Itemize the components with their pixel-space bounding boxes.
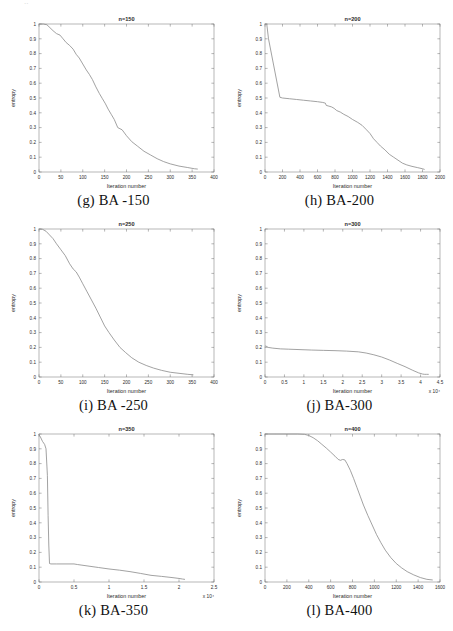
y-tick-label: 0.1 <box>256 565 263 570</box>
x-axis-exponent: x 10⁴ <box>203 594 214 599</box>
y-axis-label: entropy <box>236 499 242 517</box>
x-tick-label: 0 <box>38 380 41 385</box>
x-tick-label: 400 <box>210 380 218 385</box>
chart-title: n=300 <box>344 221 360 227</box>
y-tick-label: 0.5 <box>256 96 263 101</box>
panel-j: n=30000.511.522.533.544.500.10.20.30.40.… <box>230 219 449 399</box>
y-tick-label: 0.5 <box>256 506 263 511</box>
chart-i: n=25005010015020025030035040000.10.20.30… <box>4 219 223 399</box>
data-curve <box>265 24 424 169</box>
y-tick-label: 1 <box>259 22 262 27</box>
x-tick-label: 0 <box>264 585 267 590</box>
x-tick-label: 600 <box>314 175 322 180</box>
x-tick-label: 2.5 <box>211 585 218 590</box>
plot-box <box>265 434 440 582</box>
y-tick-label: 0.9 <box>30 447 37 452</box>
x-tick-label: 0 <box>38 175 41 180</box>
y-tick-label: 0.8 <box>30 461 37 466</box>
y-tick-label: 0.4 <box>30 111 37 116</box>
y-tick-label: 0.9 <box>256 447 263 452</box>
y-tick-label: 0.4 <box>256 111 263 116</box>
y-tick-label: 0.2 <box>30 140 37 145</box>
x-tick-label: 250 <box>145 380 153 385</box>
x-axis-label: Iteration number <box>107 593 146 599</box>
y-axis-label: entropy <box>10 499 16 517</box>
y-tick-label: 0 <box>33 375 36 380</box>
x-tick-label: 200 <box>123 175 131 180</box>
chart-title: n=150 <box>118 16 134 22</box>
x-tick-label: 1800 <box>417 175 428 180</box>
x-tick-label: 400 <box>296 175 304 180</box>
x-tick-label: 4.5 <box>437 380 444 385</box>
y-tick-label: 0.9 <box>256 37 263 42</box>
plot-box <box>39 229 214 377</box>
y-tick-label: 0.5 <box>30 301 37 306</box>
x-tick-label: 2000 <box>435 175 446 180</box>
x-axis-label: Iteration number <box>107 183 146 189</box>
x-tick-label: 1600 <box>435 585 446 590</box>
y-tick-label: 0 <box>259 580 262 585</box>
y-tick-label: 0.6 <box>256 491 263 496</box>
x-tick-label: 50 <box>58 380 64 385</box>
x-axis-label: Iteration number <box>333 593 372 599</box>
x-tick-label: 1.5 <box>320 380 327 385</box>
y-tick-label: 1 <box>259 227 262 232</box>
y-tick-label: 0.1 <box>256 360 263 365</box>
y-tick-label: 0.1 <box>30 565 37 570</box>
x-tick-label: 3 <box>380 380 383 385</box>
y-tick-label: 0.3 <box>256 330 263 335</box>
x-tick-label: 350 <box>188 380 196 385</box>
y-tick-label: 0 <box>259 170 262 175</box>
y-tick-label: 1 <box>33 22 36 27</box>
x-tick-label: 1200 <box>391 585 402 590</box>
x-tick-label: 200 <box>283 585 291 590</box>
x-tick-label: 1 <box>108 585 111 590</box>
chart-l: n=4000200400600800100012001400160000.10.… <box>230 424 449 604</box>
x-tick-label: 200 <box>123 380 131 385</box>
plot-box <box>39 24 214 172</box>
y-tick-label: 0.7 <box>256 271 263 276</box>
x-tick-label: 0.5 <box>281 380 288 385</box>
x-tick-label: 1000 <box>347 175 358 180</box>
y-tick-label: 0.8 <box>256 51 263 56</box>
data-curve <box>39 435 185 580</box>
y-tick-label: 0.8 <box>256 461 263 466</box>
chart-h-svg: n=20002004006008001000120014001600180020… <box>230 14 449 194</box>
chart-k: n=35000.511.522.500.10.20.30.40.50.60.70… <box>4 424 223 604</box>
y-tick-label: 0.5 <box>256 301 263 306</box>
panel-g: n=15005010015020025030035040000.10.20.30… <box>4 14 223 194</box>
y-tick-label: 0.3 <box>30 535 37 540</box>
panel-k: n=35000.511.522.500.10.20.30.40.50.60.70… <box>4 424 223 604</box>
y-tick-label: 0.3 <box>256 535 263 540</box>
x-tick-label: 200 <box>279 175 287 180</box>
y-tick-label: 0.9 <box>30 242 37 247</box>
x-tick-label: 1600 <box>400 175 411 180</box>
y-tick-label: 0.6 <box>256 81 263 86</box>
y-axis-label: entropy <box>236 89 242 107</box>
y-axis-label: entropy <box>236 294 242 312</box>
x-tick-label: 400 <box>210 175 218 180</box>
y-tick-label: 0.6 <box>30 286 37 291</box>
y-tick-label: 0.7 <box>256 476 263 481</box>
panel-h: n=20002004006008001000120014001600180020… <box>230 14 449 194</box>
y-tick-label: 0.8 <box>30 51 37 56</box>
x-tick-label: 1200 <box>365 175 376 180</box>
y-tick-label: 0.2 <box>256 140 263 145</box>
x-tick-label: 300 <box>166 380 174 385</box>
caption-i: (i) BA -250 <box>4 397 223 414</box>
y-tick-label: 0.6 <box>30 81 37 86</box>
data-curve <box>265 434 432 580</box>
x-tick-label: 150 <box>101 175 109 180</box>
x-tick-label: 0 <box>264 380 267 385</box>
y-axis-label: entropy <box>10 89 16 107</box>
x-axis-label: Iteration number <box>333 183 372 189</box>
panel-l: n=4000200400600800100012001400160000.10.… <box>230 424 449 604</box>
chart-j-svg: n=30000.511.522.533.544.500.10.20.30.40.… <box>230 219 449 399</box>
x-tick-label: 2.5 <box>359 380 366 385</box>
chart-i-svg: n=25005010015020025030035040000.10.20.30… <box>4 219 223 399</box>
x-tick-label: 0.5 <box>71 585 78 590</box>
y-tick-label: 0.4 <box>256 521 263 526</box>
y-tick-label: 0.1 <box>30 360 37 365</box>
chart-l-svg: n=4000200400600800100012001400160000.10.… <box>230 424 449 604</box>
plot-box <box>39 434 214 582</box>
